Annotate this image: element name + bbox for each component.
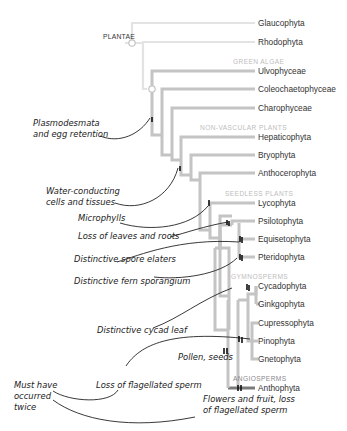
annotation-flowers-fruit: Flowers and fruit, loss of flagellated s… — [203, 394, 295, 416]
taxon-label: Ulvophyceae — [258, 66, 306, 76]
annotation-pollen-seeds: Pollen, seeds — [178, 352, 233, 363]
group-angiosperms: ANGIOSPERMS — [233, 375, 287, 383]
group-seedless: SEEDLESS PLANTS — [225, 190, 293, 198]
taxon-label: Bryophyta — [258, 150, 295, 160]
annotation-plasmodesmata: Plasmodesmata and egg retention — [33, 118, 108, 140]
taxon-label: Lycophyta — [258, 198, 296, 208]
annotation-cycad-leaf: Distinctive cycad leaf — [97, 325, 187, 336]
taxon-label: Ginkgophyta — [258, 299, 305, 309]
taxon-label: Gnetophyta — [258, 354, 301, 364]
taxon-label: Charophyceae — [258, 103, 312, 113]
taxon-label: Cycadophyta — [258, 281, 306, 291]
taxon-label: Anthophyta — [258, 383, 300, 393]
taxon-label: Coleochaetophyceae — [258, 84, 336, 94]
group-green-algae: GREEN ALGAE — [233, 58, 284, 66]
taxon-label: Pteridophyta — [258, 252, 305, 262]
taxon-label: Pinophyta — [258, 336, 295, 346]
annotation-loss-leaves-roots: Loss of leaves and roots — [78, 231, 179, 242]
group-non-vascular: NON-VASCULAR PLANTS — [200, 124, 287, 132]
taxon-label: Glaucophyta — [258, 18, 305, 28]
annotation-must-have-occurred-twice: Must have occurred twice — [14, 380, 57, 413]
plantae-node-icon — [129, 40, 135, 46]
taxon-label: Anthocerophyta — [258, 168, 316, 178]
seed-plant-branches — [215, 248, 260, 386]
taxon-label: Equisetophyta — [258, 234, 311, 244]
green-plant-node-icon — [149, 86, 155, 92]
taxon-label: Hepaticophyta — [258, 132, 311, 142]
annotation-fern-sporangium: Distinctive fern sporangium — [74, 276, 190, 287]
annotation-water-conducting: Water-conducting cells and tissues — [46, 186, 120, 208]
plantae-label: PLANTAE — [103, 33, 135, 40]
annotation-spore-elaters: Distinctive spore elaters — [74, 254, 176, 265]
annotation-microphylls: Microphylls — [78, 213, 125, 224]
taxon-label: Rhodophyta — [258, 37, 303, 47]
taxon-label: Cupressophyta — [258, 318, 314, 328]
annotation-loss-flagellated-sperm: Loss of flagellated sperm — [96, 380, 202, 391]
taxon-label: Psilotophyta — [258, 216, 303, 226]
group-gymnosperms: GYMNOSPERMS — [231, 273, 288, 281]
outgroup-branches — [125, 23, 255, 89]
